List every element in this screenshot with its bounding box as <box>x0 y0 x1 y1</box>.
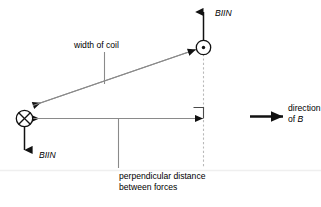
right-angle-marker-icon <box>194 108 204 119</box>
force-label-bottom: BIIN <box>39 150 56 161</box>
direction-of-b-line1: direction <box>288 103 320 113</box>
current-out-of-page-icon <box>196 40 210 54</box>
width-of-coil-label: width of coil <box>74 40 119 51</box>
coil-width-line <box>33 50 196 106</box>
direction-of-b-label: direction of B <box>288 103 320 124</box>
direction-of-b-line2-prefix: of <box>288 114 298 124</box>
physics-diagram: BIIN BIIN width of coil direction of B p… <box>0 0 321 207</box>
perp-distance-line2: between forces <box>119 182 177 192</box>
perp-distance-line1: perpendicular distance <box>119 171 205 181</box>
current-into-page-icon <box>16 110 32 126</box>
force-label-top: BIIN <box>215 8 232 19</box>
perpendicular-distance-label: perpendicular distance between forces <box>119 171 205 192</box>
direction-of-b-line2-symbol: B <box>298 114 304 124</box>
